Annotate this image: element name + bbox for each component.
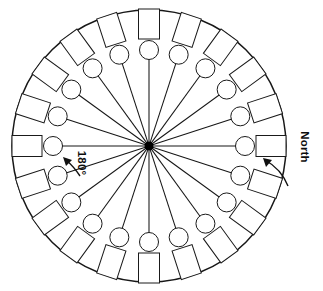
spoke-line — [65, 119, 146, 145]
spoke-node-circle — [236, 137, 255, 156]
spoke-node-rectangle — [248, 169, 283, 198]
spoke-node-circle — [217, 80, 236, 99]
spoke-line — [97, 75, 147, 144]
spoke-node-rectangle — [12, 136, 42, 157]
spoke-line — [122, 62, 148, 143]
spoke-node-rectangle — [15, 94, 50, 123]
spoke-node-circle — [169, 45, 188, 64]
spoke-node-rectangle — [97, 12, 126, 47]
spoke-line — [152, 119, 233, 145]
spoke-node-circle — [231, 107, 250, 126]
spoke-node-circle — [62, 80, 81, 99]
spoke-line — [122, 149, 148, 230]
spoke-node-circle — [83, 214, 102, 233]
spoke-node-circle — [110, 45, 129, 64]
spoke-node-circle — [48, 107, 67, 126]
spoke-node-circle — [48, 166, 67, 185]
spoke-node-circle — [140, 41, 159, 60]
spoke-node-rectangle — [248, 94, 283, 123]
spoke-node-circle — [83, 59, 102, 78]
spoke-node-rectangle — [139, 253, 160, 283]
north-label: North — [299, 131, 311, 163]
spoke-line — [151, 94, 220, 144]
spoke-line — [97, 148, 147, 217]
spoke-node-circle — [196, 59, 215, 78]
spoke-line — [151, 148, 220, 198]
spoke-node-circle — [169, 228, 188, 247]
spoke-node-rectangle — [172, 245, 201, 280]
spoke-node-rectangle — [172, 12, 201, 47]
spoke-line — [152, 147, 233, 173]
bearing-180-label: 180° — [76, 151, 88, 176]
spoke-node-circle — [110, 228, 129, 247]
spoke-node-circle — [231, 166, 250, 185]
spoke-node-rectangle — [97, 245, 126, 280]
spoke-node-circle — [44, 137, 63, 156]
spoke-line — [151, 75, 201, 144]
spoke-node-rectangle — [139, 9, 160, 39]
spoke-line — [78, 94, 147, 144]
radial-wheel-diagram: North 180° — [0, 0, 323, 291]
north-arrowhead — [263, 158, 272, 167]
spoke-line — [151, 148, 201, 217]
spoke-line — [150, 149, 176, 230]
spoke-node-circle — [62, 193, 81, 212]
center-hub — [145, 142, 153, 150]
spoke-node-circle — [196, 214, 215, 233]
spoke-node-circle — [217, 193, 236, 212]
spoke-node-rectangle — [15, 169, 50, 198]
hub-dot — [145, 142, 153, 150]
spoke-node-circle — [140, 233, 159, 252]
spoke-line — [150, 62, 176, 143]
wheel-canvas: North 180° — [0, 0, 323, 291]
spoke-node-rectangle — [256, 136, 286, 157]
